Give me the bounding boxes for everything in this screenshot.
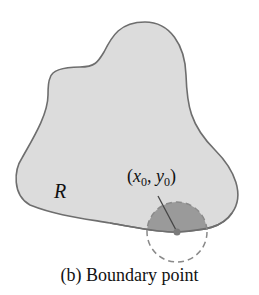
point-label-sep: ,: [147, 166, 156, 186]
point-label-x: x: [133, 166, 141, 186]
figure-caption: (b) Boundary point: [0, 265, 259, 286]
point-label-y: y: [156, 166, 164, 186]
boundary-point-figure: R (x0, y0) (b) Boundary point: [0, 0, 259, 295]
boundary-point-dot: [174, 229, 181, 236]
point-label-close: ): [170, 166, 176, 186]
point-label: (x0, y0): [127, 166, 176, 190]
region-label: R: [54, 180, 66, 203]
region-diagram: [0, 0, 259, 295]
region-r-shape: [16, 22, 238, 232]
